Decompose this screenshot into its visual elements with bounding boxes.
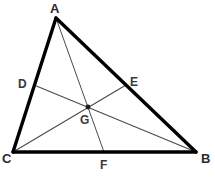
midpoint-label-E: E bbox=[130, 76, 138, 88]
centroid-label-G: G bbox=[80, 114, 89, 126]
triangle-sides-group bbox=[13, 18, 196, 152]
median-AF bbox=[56, 18, 104, 152]
centroid-point-G bbox=[86, 105, 91, 110]
triangle-diagram-canvas bbox=[0, 0, 215, 192]
medians-group bbox=[13, 18, 196, 152]
median-BD bbox=[34, 85, 196, 152]
vertex-label-A: A bbox=[50, 2, 59, 15]
vertex-label-C: C bbox=[2, 152, 11, 165]
vertex-label-B: B bbox=[201, 152, 210, 165]
side-AB bbox=[56, 18, 196, 152]
midpoint-label-F: F bbox=[100, 159, 107, 171]
geometry-figure: A B C D E F G bbox=[0, 0, 215, 192]
midpoint-label-D: D bbox=[18, 78, 27, 90]
